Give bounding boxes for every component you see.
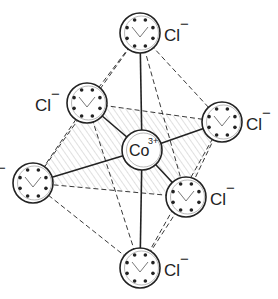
charge-label: − xyxy=(262,104,271,121)
electron-dot xyxy=(26,194,30,198)
chloride-label: Cl xyxy=(246,115,262,134)
electron-dot xyxy=(80,88,84,92)
electron-dot xyxy=(151,37,155,41)
electron-dot xyxy=(171,201,175,205)
electron-dot xyxy=(207,115,211,119)
cobalt-ion: Co3+ xyxy=(122,130,162,170)
electron-dot xyxy=(91,88,95,92)
charge-label: − xyxy=(51,85,60,102)
electron-dot xyxy=(133,279,137,283)
charge-label: − xyxy=(180,250,189,267)
chloride-ion-upper-left: Cl− xyxy=(35,83,107,123)
cobalt-label: Co xyxy=(129,142,150,159)
electron-dot xyxy=(18,187,22,191)
charge-label: − xyxy=(226,179,235,196)
electron-dot xyxy=(179,208,183,212)
electron-dot xyxy=(144,279,148,283)
electron-dot xyxy=(26,168,30,172)
electron-dot xyxy=(125,26,129,30)
electron-dot xyxy=(80,114,84,118)
chloride-label: Cl xyxy=(164,26,180,45)
electron-dot xyxy=(215,133,219,137)
electron-dot xyxy=(179,182,183,186)
electron-dot xyxy=(72,107,76,111)
electron-dot xyxy=(215,107,219,111)
electron-dot xyxy=(233,115,237,119)
atoms: Cl−Cl−Cl−Cl−Cl−Cl−Co3+ xyxy=(0,13,271,288)
electron-dot xyxy=(144,44,148,48)
electron-dot xyxy=(151,26,155,30)
electron-dot xyxy=(98,96,102,100)
electron-dot xyxy=(44,187,48,191)
electron-dot xyxy=(190,182,194,186)
electron-dot xyxy=(144,253,148,257)
chloride-label: Cl xyxy=(35,96,51,115)
electron-dot xyxy=(18,176,22,180)
electron-dot xyxy=(98,107,102,111)
chloride-ion-right: Cl− xyxy=(202,102,271,142)
chloride-label: Cl xyxy=(210,190,226,209)
electron-dot xyxy=(125,37,129,41)
electron-dot xyxy=(37,168,41,172)
diagram-canvas: Cl−Cl−Cl−Cl−Cl−Cl−Co3+ xyxy=(0,0,278,299)
electron-dot xyxy=(91,114,95,118)
electron-dot xyxy=(125,261,129,265)
electron-dot xyxy=(233,126,237,130)
electron-dot xyxy=(197,190,201,194)
electron-dot xyxy=(144,18,148,22)
chloride-ion-bottom: Cl− xyxy=(120,248,189,288)
electron-dot xyxy=(72,96,76,100)
chloride-ion-lower-right: Cl− xyxy=(166,177,235,217)
electron-dot xyxy=(44,176,48,180)
electron-dot xyxy=(125,272,129,276)
electron-dot xyxy=(151,261,155,265)
electron-dot xyxy=(37,194,41,198)
electron-dot xyxy=(226,133,230,137)
charge-label: − xyxy=(0,159,6,176)
electron-dot xyxy=(133,18,137,22)
chloride-ion-top: Cl− xyxy=(120,13,189,53)
electron-dot xyxy=(197,201,201,205)
electron-dot xyxy=(171,190,175,194)
electron-dot xyxy=(207,126,211,130)
octahedral-complex-diagram: Cl−Cl−Cl−Cl−Cl−Cl−Co3+ Octahedral [CoCl6… xyxy=(0,0,278,299)
electron-dot xyxy=(133,253,137,257)
charge-label: − xyxy=(180,15,189,32)
electron-dot xyxy=(133,44,137,48)
electron-dot xyxy=(151,272,155,276)
electron-dot xyxy=(190,208,194,212)
chloride-label: Cl xyxy=(164,261,180,280)
electron-dot xyxy=(226,107,230,111)
cobalt-charge: 3+ xyxy=(148,136,158,146)
